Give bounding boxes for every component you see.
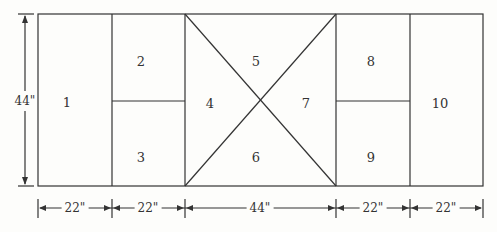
width-dimension-label: 22" [360, 201, 387, 215]
panel-label: 1 [63, 95, 71, 110]
arrowheads [22, 15, 482, 211]
panel-label: 3 [137, 150, 145, 165]
panel-label: 6 [252, 150, 260, 165]
width-dimension-label: 44" [247, 201, 274, 215]
width-dimension-label: 22" [135, 201, 162, 215]
width-dimension-label: 22" [433, 201, 460, 215]
panel-label: 8 [367, 54, 375, 69]
height-dimension-label: 44" [15, 91, 36, 111]
width-dimension-label: 22" [62, 201, 89, 215]
panel-label: 7 [302, 96, 310, 111]
quilt-layout-diagram [0, 0, 497, 232]
panel-label: 5 [252, 54, 260, 69]
panel-label: 2 [137, 54, 145, 69]
panel-label: 4 [206, 96, 214, 111]
panel-label: 10 [432, 96, 449, 111]
panel-label: 9 [367, 150, 375, 165]
